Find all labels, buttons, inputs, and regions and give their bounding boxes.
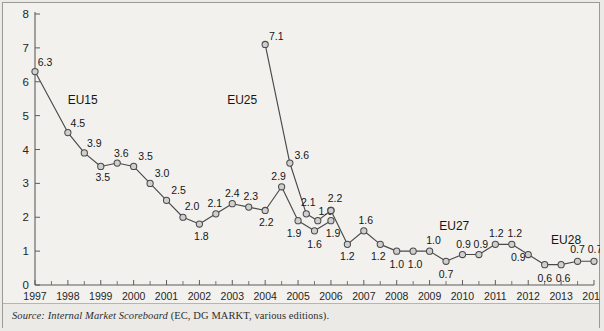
data-point-marker [114,160,120,166]
data-point-marker [295,218,301,224]
data-point-label: 3.5 [95,171,110,183]
x-tick-label: 2000 [122,290,146,302]
data-point-label: 1.6 [359,214,374,226]
data-point-label: 3.6 [295,149,310,161]
data-point-label: 0.6 [556,272,571,284]
x-tick-label: 2006 [319,290,343,302]
data-point-marker [147,180,153,186]
data-point-label: 1.2 [340,250,355,262]
data-point-label: 2.0 [185,200,200,212]
data-point-label: 4.5 [71,117,86,129]
series-annotation-eu15: EU15 [68,93,98,107]
data-point-marker [394,248,400,254]
data-point-label: 2.4 [225,187,240,199]
data-point-marker [262,207,268,213]
data-point-label: 2.5 [171,184,186,196]
y-tick-label: 3 [23,177,29,189]
data-point-marker [65,129,71,135]
data-point-marker [459,251,465,257]
data-point-marker [81,150,87,156]
y-tick-label: 5 [23,110,29,122]
x-tick-label: 2011 [484,290,507,302]
figure-container: 0123456781997199819992000200120022003200… [0,0,604,331]
data-point-marker [492,241,498,247]
data-point-marker [262,41,268,47]
data-point-label: 2.9 [271,170,286,182]
data-point-label: 1.2 [507,227,522,239]
series-line-eu25 [265,44,331,220]
data-point-marker [315,218,321,224]
data-point-marker [509,241,515,247]
data-point-marker [377,241,383,247]
data-point-label: 0.7 [588,243,600,255]
y-tick-label: 8 [23,8,29,20]
data-point-label: 3.0 [155,167,170,179]
x-tick-label: 1998 [56,290,80,302]
data-point-label: 0.9 [456,238,471,250]
data-point-label: 1.6 [307,238,322,250]
data-point-marker [311,228,317,234]
data-point-marker [558,262,564,268]
data-point-label: 1.0 [389,258,404,270]
x-tick-label: 2005 [286,290,310,302]
data-point-label: 0.7 [439,268,454,280]
data-point-marker [591,258,597,264]
data-point-marker [131,163,137,169]
data-point-label: 2.3 [243,190,258,202]
data-point-label: 7.1 [269,30,284,42]
data-point-label: 1.9 [287,227,302,239]
data-point-label: 0.6 [537,272,552,284]
series-annotation-eu27: EU27 [439,219,469,233]
data-point-marker [279,184,285,190]
source-note: Source: Internal Market Scoreboard (EC, … [12,310,329,321]
data-point-marker [163,197,169,203]
x-tick-label: 2003 [221,290,245,302]
y-tick-label: 4 [23,144,30,156]
data-point-marker [229,201,235,207]
data-point-label: 1.2 [371,250,386,262]
data-point-marker [303,211,309,217]
data-point-marker [344,241,350,247]
x-tick-label: 2001 [155,290,179,302]
plot-area: 0123456781997199819992000200120022003200… [2,2,600,302]
data-point-marker [98,163,104,169]
data-point-marker [32,68,38,74]
x-tick-label: 2014 [582,290,600,302]
source-prefix: Source: Internal Market Scoreboard [12,310,171,321]
data-point-marker [328,207,334,213]
data-point-label: 2.2 [259,216,274,228]
x-tick-label: 1997 [23,290,47,302]
y-tick-label: 6 [23,76,29,88]
x-tick-label: 2007 [352,290,376,302]
data-point-marker [542,262,548,268]
series-annotation-eu25: EU25 [227,93,257,107]
data-point-marker [196,221,202,227]
data-point-label: 2.2 [328,192,343,204]
data-point-label: 3.5 [138,150,153,162]
data-point-label: 1.0 [408,258,423,270]
x-tick-label: 2004 [253,290,277,302]
data-point-marker [574,258,580,264]
data-point-marker [361,228,367,234]
series-annotation-eu28: EU28 [551,233,581,247]
data-point-marker [213,211,219,217]
data-point-label: 3.9 [87,137,102,149]
data-point-label: 2.1 [301,196,316,208]
data-point-marker [525,251,531,257]
data-point-label: 2.1 [208,197,223,209]
x-tick-label: 2002 [188,290,212,302]
data-point-marker [443,258,449,264]
x-tick-label: 2010 [451,290,475,302]
y-tick-label: 7 [23,42,29,54]
source-bar: Source: Internal Market Scoreboard (EC, … [3,303,599,328]
x-tick-label: 2013 [549,290,573,302]
y-tick-label: 1 [23,245,29,257]
y-tick-label: 2 [23,211,29,223]
source-suffix: (EC, DG MARKT, various editions). [171,310,330,321]
x-tick-label: 2012 [517,290,541,302]
data-point-marker [328,218,334,224]
data-point-label: 0.9 [511,251,526,263]
data-point-marker [180,214,186,220]
data-point-label: 6.3 [38,56,53,68]
data-point-label: 1.9 [326,227,341,239]
